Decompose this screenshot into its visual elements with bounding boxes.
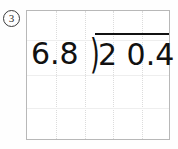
- answer-grid-box[interactable]: 6.8 ) 2 0.4: [26, 10, 170, 140]
- dividend-value: 2 0.4: [98, 33, 174, 77]
- grid-horizontal-line: [27, 108, 169, 109]
- worksheet-page: 3 6.8 ) 2 0.4: [0, 0, 178, 149]
- problem-number-badge: 3: [3, 10, 20, 27]
- divisor-value: 6.8: [31, 33, 79, 75]
- long-division-expression: 6.8 ) 2 0.4: [27, 33, 169, 79]
